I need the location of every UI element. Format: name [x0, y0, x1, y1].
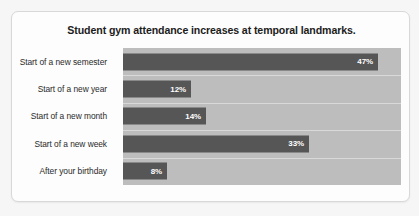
- bar-rows: Start of a new semester 47% Start of a n…: [12, 48, 411, 185]
- bar: 12%: [123, 81, 191, 98]
- category-label: Start of a new week: [34, 139, 107, 149]
- chart-card: Student gym attendance increases at temp…: [11, 11, 410, 202]
- chart-body: Start of a new semester 47% Start of a n…: [12, 48, 411, 185]
- category-label: Start of a new month: [31, 111, 107, 121]
- category-label: Start of a new semester: [20, 57, 107, 67]
- bar-value-label: 12%: [170, 85, 186, 94]
- bar-value-label: 47%: [357, 57, 373, 66]
- bar: 33%: [123, 135, 309, 152]
- bar: 14%: [123, 108, 206, 125]
- category-label: Start of a new year: [38, 84, 107, 94]
- bar: 8%: [123, 163, 167, 180]
- bar-value-label: 14%: [185, 112, 201, 121]
- bar-value-label: 8%: [151, 167, 162, 176]
- bar-row: Start of a new month 14%: [12, 103, 411, 130]
- bar-row: After your birthday 8%: [12, 158, 411, 185]
- bar: 47%: [123, 53, 378, 70]
- bar-row: Start of a new week 33%: [12, 130, 411, 157]
- bar-row: Start of a new year 12%: [12, 75, 411, 102]
- bar-value-label: 33%: [288, 139, 304, 148]
- bar-row: Start of a new semester 47%: [12, 48, 411, 75]
- category-label: After your birthday: [40, 166, 107, 176]
- chart-title: Student gym attendance increases at temp…: [12, 24, 411, 36]
